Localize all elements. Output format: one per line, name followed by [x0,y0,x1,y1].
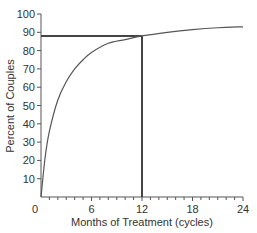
y-tick-label: 80 [23,45,35,57]
ticks: 10203040506070809010006121824 [17,8,249,215]
x-tick-label: 24 [237,203,249,215]
y-tick-label: 90 [23,26,35,38]
x-axis-title: Months of Treatment (cycles) [71,216,213,228]
reference-lines [41,36,142,197]
y-tick-label: 30 [23,136,35,148]
y-tick-label: 10 [23,173,35,185]
y-tick-label: 100 [17,8,35,20]
x-tick-label: 18 [186,203,198,215]
y-tick-label: 20 [23,154,35,166]
chart: 10203040506070809010006121824 Months of … [0,0,257,233]
x-tick-label: 6 [88,203,94,215]
y-tick-label: 40 [23,118,35,130]
y-axis-title: Percent of Couples [4,59,16,153]
y-tick-label: 60 [23,81,35,93]
x-tick-label: 12 [136,203,148,215]
y-tick-label: 70 [23,63,35,75]
y-tick-label: 50 [23,100,35,112]
x-tick-label: 0 [32,203,38,215]
